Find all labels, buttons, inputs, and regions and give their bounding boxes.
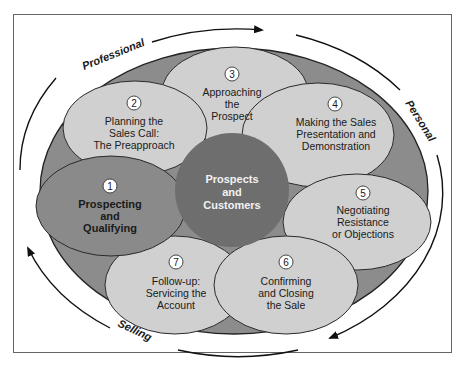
step-6-number: 6: [283, 257, 289, 268]
step-2-line-2: Sales Call:: [109, 127, 159, 139]
step-3-line-1: Approaching: [203, 86, 262, 98]
step-7-line-3: Account: [157, 299, 195, 311]
center-line-3: Customers: [203, 199, 260, 211]
step-1-number: 1: [107, 181, 113, 192]
step-2-line-3: The Preapproach: [93, 139, 174, 151]
step-1-line-3: Qualifying: [83, 222, 137, 234]
step-2-line-1: Planning the: [105, 115, 164, 127]
step-4-line-2: Presentation and: [296, 128, 376, 140]
step-4-line-3: Demonstration: [302, 140, 370, 152]
step-3-number: 3: [229, 69, 235, 80]
step-1-line-2: and: [100, 210, 120, 222]
step-6-line-2: and Closing: [258, 287, 314, 299]
selling-process-diagram: Professional Personal Selling Prospects …: [0, 0, 464, 382]
step-7-number: 7: [173, 257, 179, 268]
step-5-line-2: Resistance: [337, 216, 389, 228]
step-5-line-1: Negotiating: [336, 204, 389, 216]
step-3-line-3: Prospect: [211, 110, 253, 122]
step-4-line-1: Making the Sales: [296, 116, 377, 128]
step-2-number: 2: [131, 98, 137, 109]
step-4-number: 4: [332, 99, 338, 110]
step-5-line-3: or Objections: [332, 228, 394, 240]
step-5-number: 5: [360, 188, 366, 199]
center-line-1: Prospects: [205, 173, 258, 185]
step-7-line-2: Servicing the: [146, 287, 207, 299]
step-7-line-1: Follow-up:: [152, 275, 200, 287]
center-line-2: and: [222, 186, 242, 198]
step-6-line-3: the Sale: [267, 299, 306, 311]
step-1-line-1: Prospecting: [78, 198, 142, 210]
step-6-line-1: Confirming: [261, 275, 312, 287]
step-3-line-2: the: [225, 98, 240, 110]
